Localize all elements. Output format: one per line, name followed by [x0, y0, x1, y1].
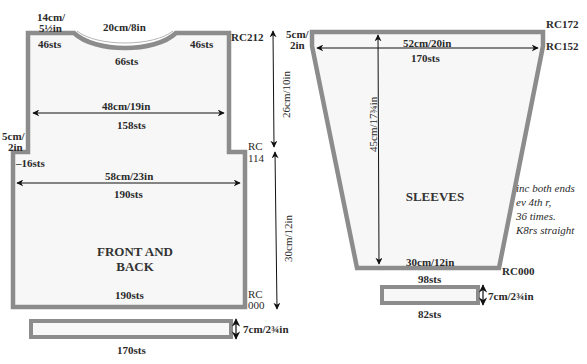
sleeve-top-width-label: 52cm/20in [403, 37, 451, 49]
note-line: ev 4th r, [516, 195, 575, 209]
sleeve-outline [312, 32, 543, 268]
sleeve-row-count-straight: RC152 [546, 40, 578, 52]
note-line: 36 times. [516, 209, 575, 223]
sleeve-row-count-bottom: RC000 [502, 265, 534, 277]
row-count-top: RC212 [231, 31, 263, 43]
lower-width-label: 58cm/23in [105, 170, 153, 182]
upper-height-label: 26cm/10in [280, 71, 292, 118]
upper-height-arrow [273, 31, 274, 147]
upper-sts-label: 158sts [117, 119, 146, 131]
sleeve-increase-note: inc both ends ev 4th r, 36 times. K8rs s… [516, 181, 575, 237]
lower-height-arrow [275, 152, 277, 309]
neck-width-label: 20cm/8in [103, 21, 146, 33]
sleeves-title: SLEEVES [395, 189, 475, 204]
decrease-sts-label: –16sts [16, 157, 45, 169]
note-line: K8rs straight [516, 223, 575, 237]
sleeve-top-sts-label: 170sts [411, 52, 440, 64]
neck-sts-label: 66sts [115, 55, 138, 67]
front-band-height-label: 7cm/2¾in [243, 323, 289, 335]
sleeve-bottom-sts-label: 98sts [418, 273, 441, 285]
row-count-mid: RC [248, 140, 263, 152]
sleeve-bottom-width-label: 30cm/12in [406, 256, 454, 268]
front-back-title: FRONT AND BACK [80, 244, 190, 274]
upper-width-label: 48cm/19in [102, 100, 150, 112]
note-line: inc both ends [516, 181, 575, 195]
left-shoulder-sts-label: 46sts [38, 38, 61, 50]
lower-sts-label: 190sts [114, 188, 143, 200]
lower-height-label: 30cm/12in [282, 215, 294, 262]
right-shoulder-sts-label: 46sts [190, 38, 213, 50]
shoulder-width-inches-label: 5½in [39, 22, 62, 34]
row-count-bottom-value: 000 [248, 299, 265, 311]
sleeve-band-height-label: 7cm/2¾in [488, 290, 534, 302]
front-back-title-line2: BACK [116, 259, 154, 274]
row-count-mid-value: 114 [248, 152, 264, 164]
pattern-schematic [0, 0, 587, 364]
front-band-sts-label: 170sts [117, 344, 146, 356]
sleeve-top-height-inches-label: 2in [290, 39, 305, 51]
front-back-title-line1: FRONT AND [97, 244, 173, 259]
bottom-sts-label: 190sts [115, 289, 144, 301]
front-band-outline [31, 321, 231, 337]
sleeve-band-sts-label: 82sts [418, 308, 441, 320]
sleeve-length-label: 45cm/17¾in [367, 97, 379, 152]
step-height-inches-label: 2in [8, 141, 23, 153]
sleeve-band-outline [382, 287, 478, 303]
sleeve-row-count-top: RC172 [546, 18, 578, 30]
